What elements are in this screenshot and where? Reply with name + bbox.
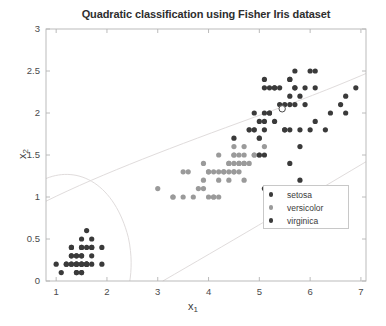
decision-boundary-group <box>46 74 366 281</box>
legend-label-virginica: virginica <box>278 216 318 226</box>
data-point-virginica <box>252 110 257 115</box>
data-point-versicolor <box>236 169 241 174</box>
data-point-versicolor <box>181 194 186 199</box>
legend-marker-setosa-icon <box>264 192 278 197</box>
tick-marks <box>46 29 366 281</box>
data-point-virginica <box>308 127 313 132</box>
x-tick-label: 6 <box>295 286 325 297</box>
data-point-virginica <box>343 110 348 115</box>
data-point-virginica <box>262 127 267 132</box>
legend-label-setosa: setosa <box>278 190 312 200</box>
data-point-versicolor <box>252 152 257 157</box>
data-point-versicolor <box>206 194 211 199</box>
data-point-virginica <box>338 102 343 107</box>
data-point-virginica <box>297 127 302 132</box>
data-point-setosa <box>69 245 74 250</box>
data-point-versicolor <box>191 194 196 199</box>
data-point-setosa <box>89 236 94 241</box>
data-point-virginica <box>262 119 267 124</box>
decision-boundary-curve <box>46 74 366 202</box>
data-point-versicolor <box>231 169 236 174</box>
data-point-versicolor <box>221 169 226 174</box>
x-tick-label: 7 <box>346 286 376 297</box>
legend-label-versicolor: versicolor <box>278 203 323 213</box>
data-point-versicolor <box>211 194 216 199</box>
data-point-versicolor <box>242 178 247 183</box>
x-tick-label: 5 <box>244 286 274 297</box>
data-point-virginica <box>308 68 313 73</box>
data-point-virginica <box>247 127 252 132</box>
x-tick-label: 4 <box>194 286 224 297</box>
x-tick-label: 3 <box>143 286 173 297</box>
data-point-virginica <box>257 152 262 157</box>
legend-item-versicolor[interactable]: versicolor <box>264 201 350 214</box>
data-point-versicolor <box>226 178 231 183</box>
y-tick-label: 1 <box>10 191 40 202</box>
figure-container: Quadratic classification using Fisher Ir… <box>0 0 386 326</box>
data-point-setosa <box>69 253 74 258</box>
data-point-setosa <box>74 253 79 258</box>
data-point-virginica <box>262 152 267 157</box>
data-point-setosa <box>79 236 84 241</box>
legend-marker-virginica-icon <box>264 218 278 223</box>
data-point-setosa <box>89 253 94 258</box>
data-point-versicolor <box>216 169 221 174</box>
data-point-setosa <box>54 262 59 267</box>
y-tick-label: 0 <box>10 275 40 286</box>
data-point-virginica <box>267 110 272 115</box>
data-point-setosa <box>69 262 74 267</box>
data-point-setosa <box>64 262 69 267</box>
data-point-versicolor <box>226 161 231 166</box>
x-tick-label: 2 <box>92 286 122 297</box>
data-point-setosa <box>74 270 79 275</box>
data-points-group <box>54 68 359 275</box>
x-axis-label: x1 <box>0 300 386 312</box>
data-point-setosa <box>79 262 84 267</box>
data-point-virginica <box>302 102 307 107</box>
data-point-setosa <box>74 262 79 267</box>
data-point-versicolor <box>242 152 247 157</box>
data-point-setosa <box>99 262 104 267</box>
data-point-versicolor <box>201 161 206 166</box>
y-tick-label: 3 <box>10 23 40 34</box>
data-point-setosa <box>79 245 84 250</box>
data-point-virginica <box>297 94 302 99</box>
x-tick-label: 1 <box>41 286 71 297</box>
data-point-virginica <box>292 68 297 73</box>
data-point-versicolor <box>231 152 236 157</box>
data-point-virginica <box>302 85 307 90</box>
data-point-virginica <box>353 85 358 90</box>
data-point-setosa <box>84 228 89 233</box>
highlight-point-group <box>279 106 285 112</box>
data-point-virginica <box>287 102 292 107</box>
data-point-virginica <box>262 85 267 90</box>
data-point-virginica <box>277 85 282 90</box>
data-point-setosa <box>59 270 64 275</box>
data-point-versicolor <box>247 161 252 166</box>
highlighted-point-marker[interactable] <box>279 106 285 112</box>
data-point-virginica <box>272 119 277 124</box>
legend-item-virginica[interactable]: virginica <box>264 214 350 227</box>
data-point-setosa <box>89 245 94 250</box>
data-point-setosa <box>89 262 94 267</box>
data-point-versicolor <box>206 169 211 174</box>
scatter-plot-canvas <box>0 0 386 326</box>
data-point-versicolor <box>262 144 267 149</box>
data-point-virginica <box>297 178 302 183</box>
data-point-virginica <box>287 77 292 82</box>
data-point-virginica <box>343 94 348 99</box>
data-point-virginica <box>292 102 297 107</box>
legend[interactable]: setosa versicolor virginica <box>263 185 349 229</box>
data-point-versicolor <box>201 186 206 191</box>
data-point-virginica <box>257 119 262 124</box>
data-point-virginica <box>287 94 292 99</box>
data-point-virginica <box>252 127 257 132</box>
data-point-versicolor <box>236 161 241 166</box>
data-point-versicolor <box>216 194 221 199</box>
data-point-versicolor <box>201 178 206 183</box>
data-point-versicolor <box>242 144 247 149</box>
data-point-virginica <box>267 85 272 90</box>
legend-item-setosa[interactable]: setosa <box>264 188 350 201</box>
axes-frame <box>46 29 366 281</box>
data-point-virginica <box>231 136 236 141</box>
